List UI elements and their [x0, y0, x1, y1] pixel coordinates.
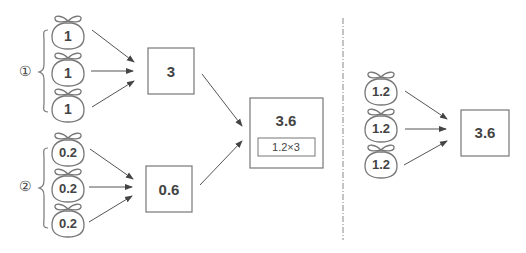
- bag: 1.2: [365, 72, 397, 105]
- arrow: [200, 141, 242, 185]
- bag: 1.2: [365, 145, 397, 178]
- bag: 0.2: [52, 133, 84, 166]
- svg-text:1: 1: [64, 65, 72, 81]
- group-1-brace: [39, 30, 48, 112]
- bag: 1: [52, 16, 84, 49]
- group-1: ① 1 1 1 3: [19, 16, 195, 122]
- right-group: 1.2 1.2 1.2 3.6: [365, 72, 509, 178]
- arrow: [90, 149, 133, 179]
- group-2-brace: [39, 148, 48, 228]
- arrow: [202, 74, 242, 126]
- svg-text:1.2: 1.2: [372, 121, 390, 136]
- bag: 0.2: [52, 204, 84, 237]
- arrow: [89, 196, 132, 222]
- combined-box: [250, 98, 323, 168]
- combined: 3.6 1.2×3: [200, 74, 323, 185]
- bag: 0.2: [52, 169, 84, 202]
- arrow: [92, 30, 134, 62]
- svg-text:0.2: 0.2: [59, 181, 77, 196]
- arrow: [404, 141, 447, 165]
- svg-text:0.2: 0.2: [59, 216, 77, 231]
- combined-value: 3.6: [276, 112, 297, 129]
- bag: 1: [52, 53, 84, 86]
- group-2: ② 0.2 0.2 0.2 0.6: [19, 133, 193, 237]
- svg-text:1: 1: [64, 28, 72, 44]
- bag: 1: [52, 89, 84, 122]
- diagram-canvas: ① 1 1 1 3 ② 0.2 0.2 0.2 0.6 3.6 1.2×3 1.…: [0, 0, 526, 253]
- bag: 1.2: [365, 109, 397, 142]
- svg-text:0.2: 0.2: [59, 145, 77, 160]
- group-2-marker: ②: [19, 178, 32, 194]
- arrow: [92, 81, 134, 107]
- formula: 1.2×3: [272, 141, 300, 153]
- svg-text:1.2: 1.2: [372, 157, 390, 172]
- arrow: [405, 91, 447, 119]
- svg-text:1.2: 1.2: [372, 84, 390, 99]
- group-1-result: 3: [167, 63, 175, 80]
- right-result: 3.6: [475, 124, 496, 141]
- group-1-marker: ①: [19, 63, 32, 79]
- svg-text:1: 1: [64, 101, 72, 117]
- group-2-result: 0.6: [159, 181, 180, 198]
